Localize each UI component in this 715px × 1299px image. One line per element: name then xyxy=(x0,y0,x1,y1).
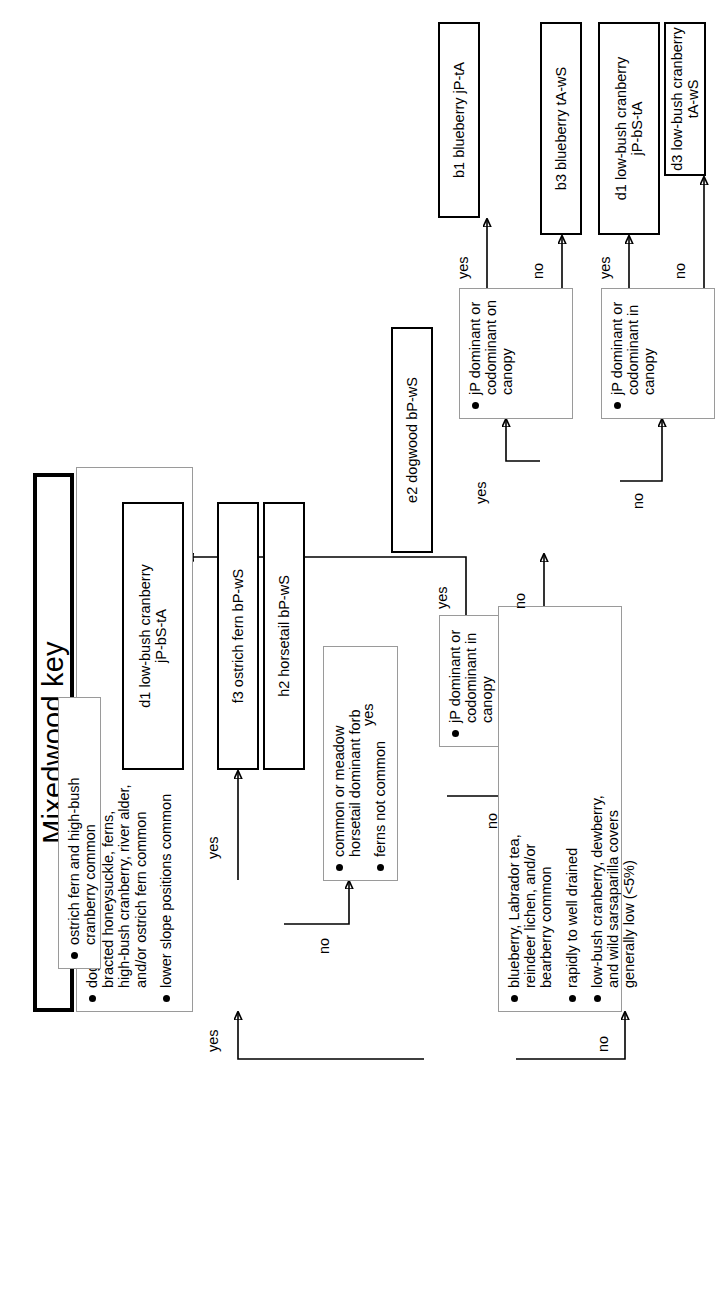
bullet-item: jP dominant or codominant in canopy xyxy=(447,622,496,737)
edge-label-q4-yes: yes xyxy=(434,586,450,609)
edge-label-q6-yes: yes xyxy=(455,256,471,279)
question-node-q5[interactable]: blueberry, Labrador tea, reindeer lichen… xyxy=(498,606,622,1012)
question-node-q6[interactable]: jP dominant or codominant on canopy xyxy=(459,288,573,419)
bullet-dot xyxy=(452,730,459,737)
edge-label-q2-no: no xyxy=(316,938,332,954)
edge-q5-no xyxy=(620,419,662,481)
bullet-item: ostrich fern and high-bush cranberry com… xyxy=(66,704,98,959)
edge-q2-no xyxy=(284,881,349,924)
outcome-node-b1[interactable]: b1 blueberry jP-tA xyxy=(438,22,480,218)
edge-q1-yes xyxy=(238,1012,424,1059)
edge-label-q7-no: no xyxy=(672,263,688,279)
bullet-dot xyxy=(163,995,170,1002)
bullet-dot xyxy=(569,995,576,1002)
outcome-label: d3 low-bush cranberry tA-wS xyxy=(666,24,704,174)
outcome-label: f3 ostrich fern bP-wS xyxy=(219,504,257,768)
bullet-item: low-bush cranberry, dewberry, and wild s… xyxy=(589,613,638,1002)
edge-label-q6-no: no xyxy=(530,263,546,279)
outcome-node-d1-upper[interactable]: d1 low-bush cranberry jP-bS-tA xyxy=(122,502,184,770)
bullet-dot xyxy=(594,995,601,1002)
bullet-item: common or meadow horsetail dominant forb xyxy=(331,653,363,871)
bullet-item: ferns not common xyxy=(372,653,388,871)
outcome-node-h2[interactable]: h2 horsetail bP-wS xyxy=(263,502,305,770)
edge-label-q5-yes: yes xyxy=(473,481,489,504)
outcome-label: e2 dogwood bP-wS xyxy=(393,329,431,551)
outcome-label: d1 low-bush cranberry jP-bS-tA xyxy=(600,24,658,233)
outcome-node-e2[interactable]: e2 dogwood bP-wS xyxy=(391,327,433,553)
outcome-label: d1 low-bush cranberry jP-bS-tA xyxy=(124,504,182,768)
edge-q5-yes xyxy=(506,419,540,461)
question-node-q3[interactable]: common or meadow horsetail dominant forb… xyxy=(323,646,398,881)
outcome-label: b3 blueberry tA-wS xyxy=(542,24,580,233)
bullet-dot xyxy=(472,402,479,409)
bullet-dot xyxy=(511,995,518,1002)
outcome-node-b3[interactable]: b3 blueberry tA-wS xyxy=(540,22,582,235)
edge-label-q1-no: no xyxy=(595,1036,611,1052)
bullet-dot xyxy=(71,952,78,959)
edge-label-q3-yes: yes xyxy=(360,703,376,726)
bullet-item: jP dominant or codominant on canopy xyxy=(467,295,516,409)
bullet-item: blueberry, Labrador tea, reindeer lichen… xyxy=(506,613,555,1002)
edge-label-q4-no: no xyxy=(512,593,528,609)
bullet-dot xyxy=(377,864,384,871)
outcome-node-d3[interactable]: d3 low-bush cranberry tA-wS xyxy=(664,22,706,176)
bullet-item: jP dominant or codominant in canopy xyxy=(609,295,658,409)
outcome-node-f3[interactable]: f3 ostrich fern bP-wS xyxy=(217,502,259,770)
bullet-dot xyxy=(89,995,96,1002)
edge-label-q3-no: no xyxy=(484,813,500,829)
bullet-item: rapidly to well drained xyxy=(564,613,580,1002)
edge-label-q1-yes: yes xyxy=(205,1029,221,1052)
question-node-q2[interactable]: ostrich fern and high-bush cranberry com… xyxy=(58,697,101,969)
outcome-node-d1-lower[interactable]: d1 low-bush cranberry jP-bS-tA xyxy=(598,22,660,235)
edge-label-q5-no: no xyxy=(630,493,646,509)
edge-label-q2-yes: yes xyxy=(205,836,221,859)
question-node-q7[interactable]: jP dominant or codominant in canopy xyxy=(601,288,715,419)
outcome-label: h2 horsetail bP-wS xyxy=(265,504,303,768)
bullet-dot xyxy=(614,402,621,409)
outcome-label: b1 blueberry jP-tA xyxy=(440,24,478,216)
bullet-dot xyxy=(336,864,343,871)
edge-label-q7-yes: yes xyxy=(597,256,613,279)
